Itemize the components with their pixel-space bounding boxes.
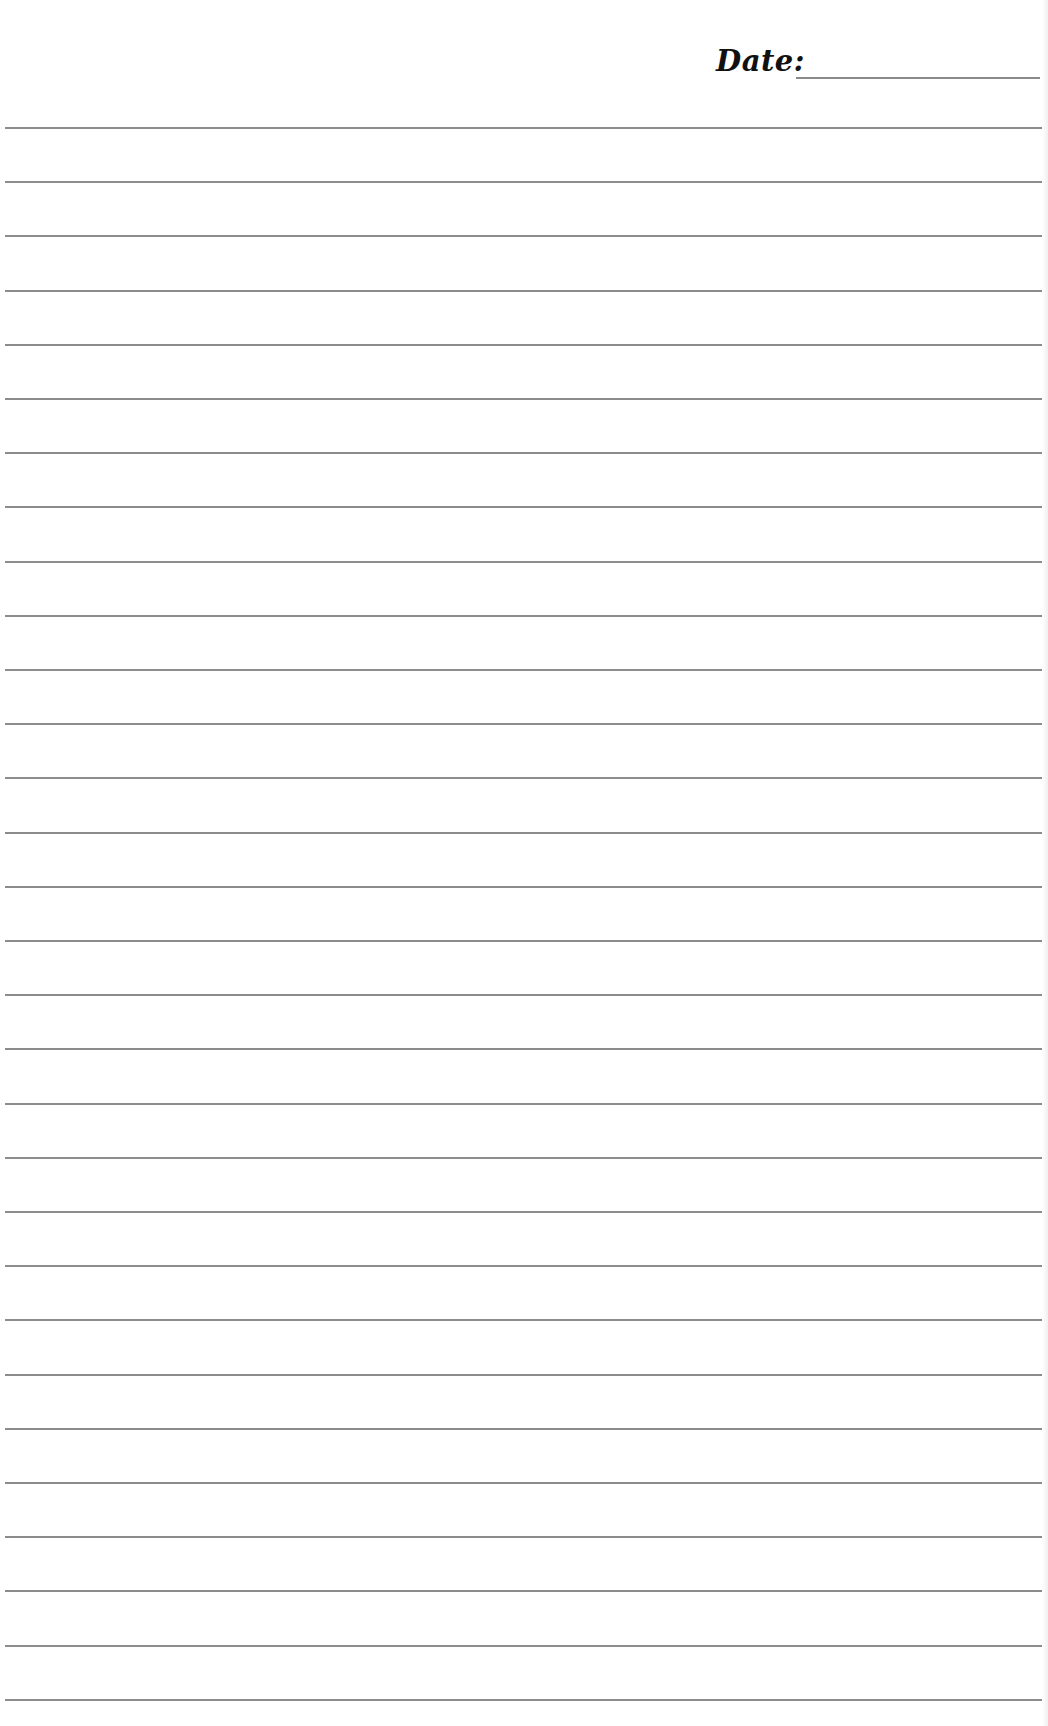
- ruled-line: [5, 1103, 1042, 1105]
- ruled-line: [5, 615, 1042, 617]
- ruled-line: [5, 940, 1042, 942]
- ruled-line: [5, 994, 1042, 996]
- ruled-line: [5, 1319, 1042, 1321]
- ruled-line: [5, 886, 1042, 888]
- ruled-line: [5, 777, 1042, 779]
- ruled-line: [5, 1590, 1042, 1592]
- ruled-line: [5, 127, 1042, 129]
- ruled-line: [5, 1265, 1042, 1267]
- ruled-line: [5, 1645, 1042, 1647]
- ruled-line: [5, 235, 1042, 237]
- ruled-line: [5, 1482, 1042, 1484]
- ruled-line: [5, 669, 1042, 671]
- ruled-line: [5, 344, 1042, 346]
- ruled-line: [5, 506, 1042, 508]
- ruled-line: [5, 1048, 1042, 1050]
- ruled-line: [5, 1211, 1042, 1213]
- ruled-line: [5, 1428, 1042, 1430]
- ruled-line: [5, 1699, 1042, 1701]
- date-field-line[interactable]: [796, 77, 1040, 79]
- ruled-line: [5, 561, 1042, 563]
- date-label: Date:: [716, 44, 805, 78]
- ruled-line: [5, 290, 1042, 292]
- ruled-line: [5, 1536, 1042, 1538]
- notebook-page: Date:: [0, 0, 1048, 1726]
- ruled-line: [5, 398, 1042, 400]
- ruled-line: [5, 1157, 1042, 1159]
- page-edge-shadow: [1042, 0, 1048, 1726]
- ruled-line: [5, 832, 1042, 834]
- ruled-line: [5, 1374, 1042, 1376]
- ruled-line: [5, 452, 1042, 454]
- ruled-line: [5, 723, 1042, 725]
- ruled-line: [5, 181, 1042, 183]
